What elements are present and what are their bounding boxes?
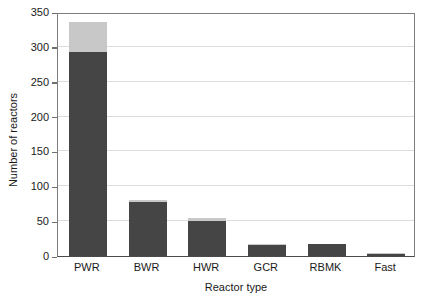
x-tick-label-fast: Fast [345,261,425,273]
bar-segment-operational [367,254,405,256]
y-tick-label: 200 [31,110,49,125]
y-tick-label: 250 [31,75,49,90]
y-tick-label: 150 [31,144,49,159]
bar-segment-operational [129,202,167,256]
bar-segment-under-construction [367,253,405,254]
y-tick-label: 100 [31,179,49,194]
bar-segment-under-construction [69,22,107,53]
bar-fast [367,253,405,256]
bar-gcr [248,244,286,256]
gridline [58,116,414,117]
bar-segment-operational [308,244,346,256]
gridline [58,220,414,221]
plot-area [57,13,415,257]
bar-hwr [188,218,226,256]
y-tick-label: 300 [31,40,49,55]
gridline [58,185,414,186]
gridline [58,81,414,82]
bar-segment-operational [69,52,107,256]
bar-rbmk [308,244,346,256]
gridline [58,150,414,151]
bar-segment-under-construction [188,218,226,221]
x-axis-title: Reactor type [57,281,415,293]
bar-segment-under-construction [129,200,167,202]
bar-chart: 050100150200250300350 Number of reactors… [0,0,427,302]
bar-segment-operational [188,221,226,256]
bar-segment-operational [248,245,286,256]
bar-segment-under-construction [248,244,286,245]
bar-bwr [129,200,167,256]
y-tick-label: 50 [37,214,49,229]
bar-pwr [69,22,107,256]
y-tick-label: 350 [31,5,49,20]
gridline [58,46,414,47]
y-axis-title: Number of reactors [7,80,19,200]
